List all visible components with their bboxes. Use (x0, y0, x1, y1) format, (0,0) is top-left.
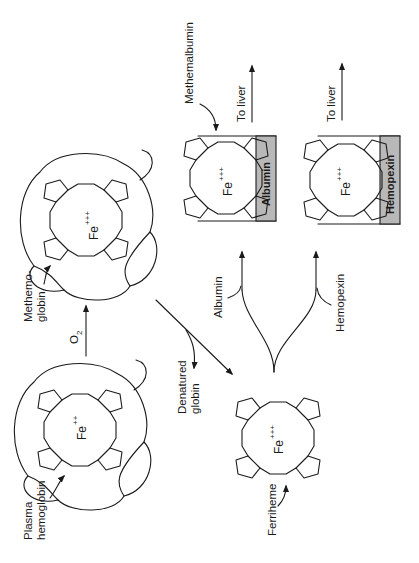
svg-text:+++: +++ (217, 167, 226, 181)
o2-label: O 2 (68, 330, 84, 344)
svg-text:Fe: Fe (87, 226, 101, 240)
fe2-label: Fe ++ (71, 415, 89, 440)
methemoglobin-label: Methemo- globin (22, 270, 47, 322)
svg-text:Methemo-: Methemo- (22, 270, 34, 322)
svg-text:+++: +++ (335, 167, 344, 181)
svg-text:Hemopexin: Hemopexin (334, 274, 346, 332)
ferriheme-label: Ferriheme (266, 484, 278, 536)
svg-text:2: 2 (75, 330, 84, 335)
hemopexin-path-label: Hemopexin (334, 274, 346, 332)
to-liver-label-2: To liver (325, 85, 337, 122)
svg-text:globin: globin (35, 291, 47, 322)
to-liver-label-1: To liver (235, 85, 247, 122)
svg-text:+++: +++ (83, 211, 92, 225)
hemopexin-joiner (317, 288, 331, 305)
methemalbumin-pointer (200, 104, 216, 130)
svg-text:hemoglobin: hemoglobin (35, 481, 47, 540)
svg-text:O: O (68, 335, 80, 344)
svg-text:++: ++ (71, 415, 80, 425)
svg-text:Fe: Fe (221, 182, 235, 196)
svg-text:Methemalbumin: Methemalbumin (183, 22, 195, 104)
svg-text:Fe: Fe (339, 182, 353, 196)
denatured-globin-label: Denatured globin (176, 360, 201, 414)
svg-text:To liver: To liver (235, 85, 247, 122)
ferriheme-pointer (278, 486, 286, 506)
plasma-hemoglobin-pointer (50, 476, 64, 498)
hemopexin-branch (274, 290, 316, 372)
albumin-carrier-label: Albumin (260, 162, 272, 206)
fe3-label-ferriheme: Fe +++ (268, 425, 286, 454)
svg-text:Ferriheme: Ferriheme (266, 484, 278, 536)
svg-text:globin: globin (189, 383, 201, 414)
svg-text:Albumin: Albumin (212, 276, 224, 318)
methemalbumin-label: Methemalbumin (183, 22, 195, 104)
fe3-label-methemalbumin: Fe +++ (217, 167, 235, 196)
fe3-label-methemoglobin: Fe +++ (83, 211, 101, 240)
svg-text:Hemopexin: Hemopexin (384, 154, 396, 214)
svg-text:Denatured: Denatured (176, 360, 188, 414)
plasma-hemoglobin-label: Plasma hemoglobin (22, 481, 47, 540)
svg-text:Albumin: Albumin (260, 162, 272, 206)
albumin-path-label: Albumin (212, 276, 224, 318)
hemopexin-carrier-label: Hemopexin (384, 154, 396, 214)
albumin-joiner (228, 286, 241, 298)
svg-text:+++: +++ (268, 425, 277, 439)
heme-metabolism-diagram: Fe ++ Plasma hemoglobin O 2 Fe +++ Methe… (0, 0, 419, 563)
svg-text:To liver: To liver (325, 85, 337, 122)
fe3-label-hemopexin: Fe +++ (335, 167, 353, 196)
svg-text:Fe: Fe (272, 440, 286, 454)
svg-text:Fe: Fe (75, 426, 89, 440)
ferriheme-molecule (236, 398, 320, 478)
albumin-branch (242, 290, 274, 372)
svg-text:Plasma: Plasma (22, 501, 34, 540)
